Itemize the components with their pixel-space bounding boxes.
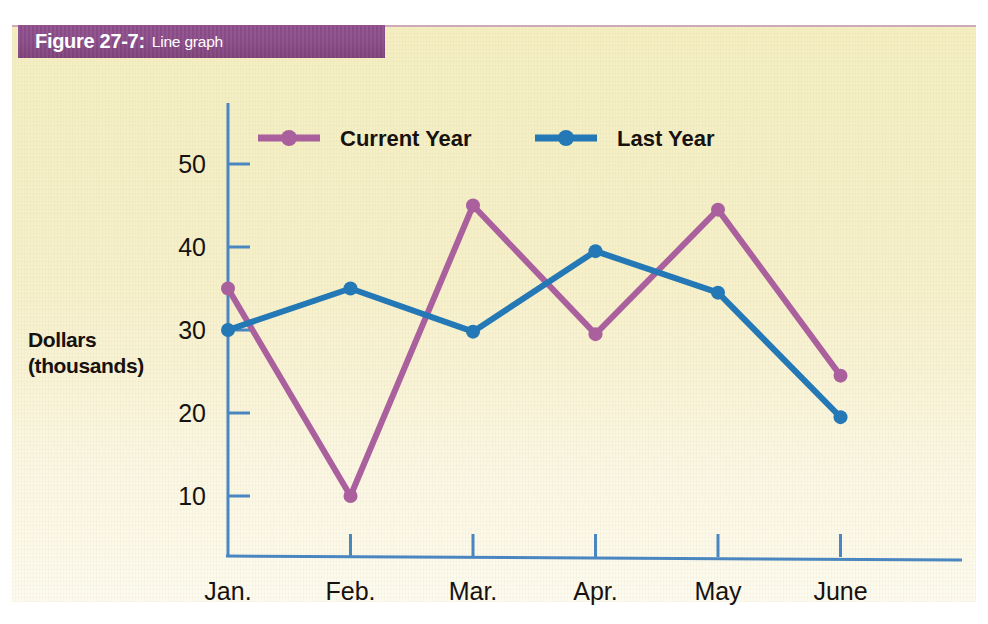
data-point	[466, 325, 480, 339]
legend-label: Last Year	[617, 126, 715, 151]
legend-swatch-marker	[558, 130, 574, 146]
x-axis-tick-label: Apr.	[573, 577, 617, 605]
data-point	[711, 286, 725, 300]
x-axis-tick-label: Feb.	[325, 577, 375, 605]
data-point	[589, 244, 603, 258]
x-axis-tick-label: Jan.	[204, 577, 251, 605]
data-point	[466, 199, 480, 213]
series-line-last-year	[228, 251, 841, 417]
data-point	[834, 410, 848, 424]
data-point	[344, 489, 358, 503]
line-chart: 1020304050Jan.Feb.Mar.Apr.MayJuneCurrent…	[0, 0, 988, 624]
figure-container: Figure 27-7: Line graph Dollars (thousan…	[0, 0, 988, 624]
data-point	[711, 203, 725, 217]
y-axis-tick-label: 50	[178, 150, 206, 178]
legend-label: Current Year	[340, 126, 472, 151]
data-point	[221, 282, 235, 296]
data-point	[344, 282, 358, 296]
legend-swatch-marker	[281, 130, 297, 146]
y-axis-tick-label: 40	[178, 233, 206, 261]
y-axis-tick-label: 10	[178, 482, 206, 510]
series-line-current-year	[228, 206, 841, 497]
data-point	[589, 327, 603, 341]
y-axis-tick-label: 20	[178, 399, 206, 427]
y-axis-tick-label: 30	[178, 316, 206, 344]
x-axis-tick-label: May	[694, 577, 742, 605]
x-axis-tick-label: Mar.	[449, 577, 498, 605]
data-point	[221, 323, 235, 337]
data-point	[834, 369, 848, 383]
x-axis-tick-label: June	[813, 577, 867, 605]
